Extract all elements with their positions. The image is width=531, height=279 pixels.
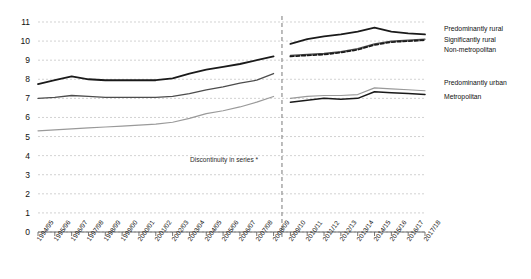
y-tick-label: 10 (8, 37, 30, 46)
series-line-predominantly-urban (38, 96, 274, 130)
discontinuity-annotation: Discontinuity in series * (190, 156, 258, 163)
y-tick-label: 4 (8, 152, 30, 161)
y-tick-label: 11 (8, 18, 30, 27)
legend-item-significantly-rural[interactable]: Significantly rural (444, 37, 496, 44)
y-tick-label: 1 (8, 209, 30, 218)
y-tick-label: 3 (8, 171, 30, 180)
legend-item-predominantly-rural[interactable]: Predominantly rural (444, 26, 503, 33)
y-tick-label: 7 (8, 94, 30, 103)
y-tick-label: 2 (8, 190, 30, 199)
y-tick-label: 0 (8, 228, 30, 237)
legend-item-metropolitan[interactable]: Metropolitan (444, 94, 481, 101)
y-tick-label: 5 (8, 133, 30, 142)
legend-item-non-metropolitan[interactable]: Non-metropolitan (444, 47, 496, 54)
legend-item-predominantly-urban[interactable]: Predominantly urban (444, 80, 507, 87)
series-line-metropolitan (290, 92, 425, 103)
y-tick-label: 8 (8, 75, 30, 84)
y-tick-label: 9 (8, 56, 30, 65)
y-tick-label: 6 (8, 113, 30, 122)
line-chart: 012345678910111994/951995/961996/971997/… (0, 0, 531, 279)
